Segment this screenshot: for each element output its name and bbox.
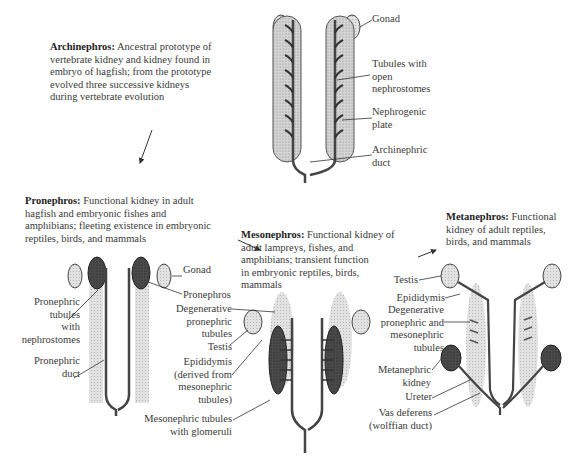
- label-mesonephric-tubules-glomeruli: Mesonephric tubuleswith glomeruli: [144, 413, 232, 438]
- label-pronephric-duct: Pronephricduct: [34, 355, 80, 380]
- mesonephros-title: Mesonephros:: [241, 229, 304, 240]
- label-ureter: Ureter: [405, 391, 432, 404]
- mesonephros-description: Mesonephros: Functional kidney of adult …: [241, 229, 395, 292]
- label-vas-deferens: Vas deferens(wolffian duct): [369, 407, 432, 432]
- metanephros-title: Metanephros:: [446, 211, 509, 222]
- archinephros-figure: [273, 15, 372, 183]
- label-pronephros: Pronephros: [183, 289, 231, 302]
- label-nephrogenic-plate: Nephrogenicplate: [372, 106, 426, 131]
- label-gonad: Gonad: [372, 13, 400, 26]
- metanephros-description: Metanephros: Functional kidney of adult …: [446, 211, 556, 249]
- label-metanephros-epididymis: Epididymis: [397, 292, 445, 305]
- archinephros-title: Archinephros:: [50, 41, 115, 52]
- label-pronephros-gonad: Gonad: [183, 264, 211, 277]
- label-metanephros-testis: Testis: [394, 274, 418, 287]
- label-degenerative-pronephric-mesonephric-tubules: Degenerativepronephric andmesonephrictub…: [381, 304, 444, 354]
- label-degenerative-pronephric-tubules: Degenerativepronephrictubules: [176, 303, 232, 341]
- mesonephros-figure: [230, 292, 370, 453]
- archinephros-description: Archinephros: Ancestral prototype of ver…: [50, 41, 212, 104]
- pronephros-title: Pronephros:: [25, 195, 81, 206]
- label-metanephric-kidney: Metanephrickidney: [378, 364, 431, 389]
- pronephros-description: Pronephros: Functional kidney in adult h…: [25, 195, 211, 245]
- label-epididymis-derived: Epididymis(derived frommesonephrictubule…: [174, 356, 232, 406]
- label-tubules-open-nephrostomes: Tubules withopennephrostomes: [372, 58, 430, 96]
- label-archinephric-duct: Archinephricduct: [372, 144, 427, 169]
- label-pronephric-tubules: Pronephrictubuleswithnephrostomes: [22, 296, 80, 346]
- pronephros-figure: [68, 257, 182, 416]
- label-mesonephros-testis: Testis: [208, 341, 232, 354]
